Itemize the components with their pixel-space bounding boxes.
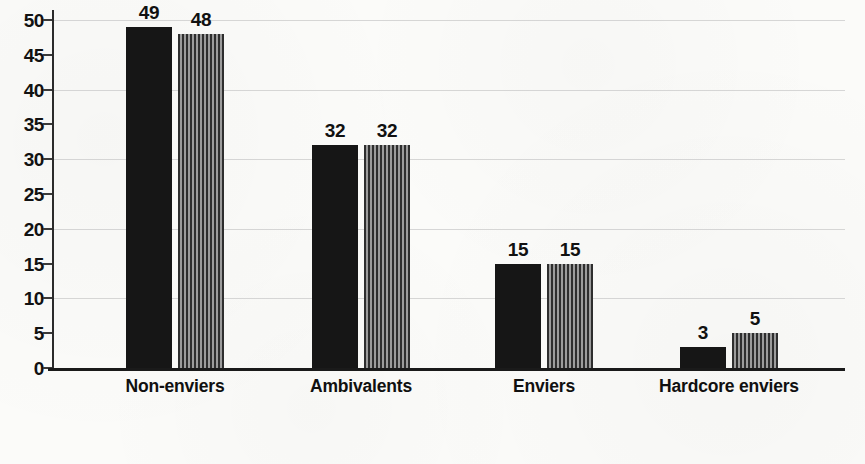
bar-value-label: 5 xyxy=(722,309,788,328)
y-axis-tick xyxy=(43,332,52,334)
y-axis-tick-label: 10 xyxy=(4,289,44,308)
y-axis-tick xyxy=(43,19,52,21)
y-axis-tick xyxy=(43,297,52,299)
bar xyxy=(495,264,541,368)
y-axis-tick xyxy=(43,263,52,265)
bar xyxy=(364,145,410,368)
y-axis-tick-label: 50 xyxy=(4,11,44,30)
y-axis-tick xyxy=(43,158,52,160)
bar-chart: 05101520253035404550 49483232151535 Non-… xyxy=(0,0,865,464)
bar xyxy=(732,333,778,368)
y-axis-tick-label: 35 xyxy=(4,115,44,134)
bar-value-label: 48 xyxy=(168,10,234,29)
bar-value-label: 15 xyxy=(537,240,603,259)
y-axis-tick-label: 15 xyxy=(4,255,44,274)
x-axis-line xyxy=(48,368,845,371)
x-axis-category-label: Hardcore enviers xyxy=(619,378,839,396)
bar-value-label: 32 xyxy=(354,121,420,140)
y-axis-line xyxy=(52,10,54,368)
y-axis-tick xyxy=(43,123,52,125)
bar xyxy=(178,34,224,368)
y-axis-tick xyxy=(43,89,52,91)
y-axis-labels: 05101520253035404550 xyxy=(0,20,44,368)
bar xyxy=(680,347,726,368)
y-axis-tick xyxy=(43,193,52,195)
y-axis-tick-label: 0 xyxy=(4,359,44,378)
bar xyxy=(547,264,593,368)
y-axis-tick-label: 5 xyxy=(4,324,44,343)
y-axis-tick xyxy=(43,54,52,56)
y-axis-tick-label: 40 xyxy=(4,81,44,100)
bar xyxy=(312,145,358,368)
y-axis-tick-label: 25 xyxy=(4,185,44,204)
plot-area: 49483232151535 xyxy=(52,20,845,368)
y-axis-tick-label: 45 xyxy=(4,46,44,65)
y-axis-tick-label: 30 xyxy=(4,150,44,169)
bar xyxy=(126,27,172,368)
y-axis-tick xyxy=(43,228,52,230)
y-axis-tick-label: 20 xyxy=(4,220,44,239)
